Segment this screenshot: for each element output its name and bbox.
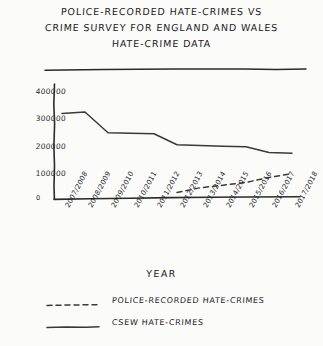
legend-item-police-recorded: Police-recorded hate-crimes — [46, 296, 316, 318]
legend-label-police-recorded: Police-recorded hate-crimes — [112, 296, 265, 305]
chart-plot-area: 400000 300000 200000 100000 0 2007/2008 … — [0, 0, 323, 270]
series-line-csew — [62, 112, 292, 153]
chart-legend: Police-recorded hate-crimes CSEW hate-cr… — [46, 296, 316, 340]
legend-swatch-dashed-icon — [46, 300, 100, 310]
legend-label-csew: CSEW hate-crimes — [112, 318, 204, 327]
y-axis-line — [54, 84, 55, 199]
plot-svg — [0, 0, 323, 270]
chart-page: Police-recorded hate-crimes vs Crime sur… — [0, 0, 323, 346]
xaxis-title: Year — [0, 268, 323, 279]
legend-item-csew: CSEW hate-crimes — [46, 318, 316, 340]
legend-swatch-solid-icon — [46, 322, 100, 332]
